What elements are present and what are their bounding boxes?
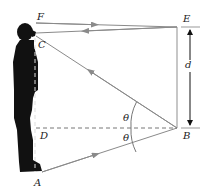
ray-b-c-arrow <box>90 71 177 128</box>
label-a: A <box>34 178 41 188</box>
ray-f-e-arrow <box>36 23 95 25</box>
label-d-point: D <box>40 131 48 141</box>
label-d: d <box>185 60 191 70</box>
mirror-diagram: F C E d D B A θ θ <box>0 0 207 193</box>
label-e: E <box>183 14 190 24</box>
angle-arc-lower <box>131 128 136 152</box>
label-b: B <box>183 131 190 141</box>
label-theta-upper: θ <box>123 113 129 123</box>
label-theta-lower: θ <box>123 133 129 143</box>
label-f: F <box>37 12 44 22</box>
label-c: C <box>38 40 46 50</box>
angle-arc-upper <box>131 102 137 128</box>
ray-a-b-arrow <box>42 154 96 172</box>
ray-e-c-arrow <box>85 27 177 31</box>
diagram-graphics <box>0 0 207 193</box>
